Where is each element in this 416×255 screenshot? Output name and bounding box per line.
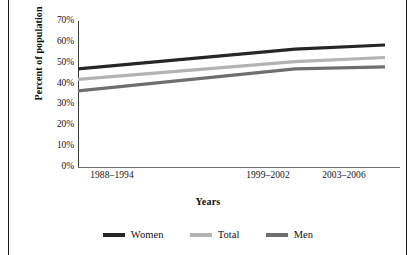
x-tick-label: 1988–1994: [90, 170, 134, 181]
plot-area: [78, 21, 385, 167]
page-rule-left: [8, 0, 9, 255]
figure-container: Percent of population 70%60%50%40%30%20%…: [0, 0, 416, 255]
x-axis-line: [78, 167, 400, 168]
page-rule-right: [406, 0, 407, 255]
y-tick-label: 30%: [57, 99, 74, 109]
x-tick-label: 1999–2002: [246, 170, 290, 181]
legend-label: Men: [294, 229, 314, 240]
y-tick-label: 50%: [57, 58, 74, 68]
x-tick-label: 2003–2006: [322, 170, 366, 181]
y-tick-label: 40%: [57, 79, 74, 89]
chart-legend: WomenTotalMen: [0, 229, 416, 240]
y-axis-tick-labels: 70%60%50%40%30%20%10%0%: [34, 0, 74, 255]
legend-label: Total: [218, 229, 240, 240]
legend-swatch-icon: [103, 233, 125, 237]
legend-item-total[interactable]: Total: [190, 229, 240, 240]
y-tick-label: 60%: [57, 37, 74, 47]
y-tick-label: 10%: [57, 141, 74, 151]
legend-label: Women: [131, 229, 164, 240]
series-lines: [78, 21, 385, 167]
y-tick-label: 70%: [57, 16, 74, 26]
y-tick-label: 0%: [62, 162, 74, 172]
legend-swatch-icon: [266, 233, 288, 237]
legend-item-men[interactable]: Men: [266, 229, 314, 240]
y-tick-label: 20%: [57, 120, 74, 130]
legend-item-women[interactable]: Women: [103, 229, 164, 240]
legend-swatch-icon: [190, 233, 212, 237]
series-line-men: [78, 67, 385, 91]
x-axis-title: Years: [0, 196, 416, 207]
